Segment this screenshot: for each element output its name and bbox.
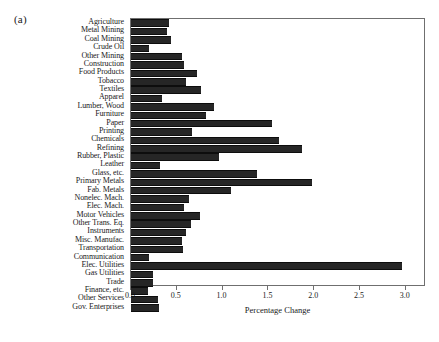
- bar: [131, 246, 183, 253]
- bar: [131, 78, 186, 85]
- bar: [131, 220, 191, 227]
- x-tick-label: 0.0: [125, 291, 135, 300]
- bar: [131, 229, 186, 236]
- x-tick-label: 3.0: [400, 291, 410, 300]
- bar-row: [131, 220, 424, 228]
- bar-row: [131, 262, 424, 270]
- bar-row: [131, 128, 424, 136]
- panel-letter: (a): [14, 13, 27, 25]
- x-tick-mark: [176, 286, 177, 290]
- bar-row: [131, 187, 424, 195]
- bar-row: [131, 86, 424, 94]
- bar-row: [131, 178, 424, 186]
- bar: [131, 86, 201, 93]
- x-tick-mark: [267, 286, 268, 290]
- bar: [131, 179, 312, 186]
- bar: [131, 28, 167, 35]
- x-tick-mark: [313, 286, 314, 290]
- bar: [131, 137, 279, 144]
- bar: [131, 45, 149, 52]
- bar-row: [131, 136, 424, 144]
- bar-row: [131, 270, 424, 278]
- bar: [131, 153, 219, 160]
- bar: [131, 61, 184, 68]
- bar-row: [131, 69, 424, 77]
- bar: [131, 36, 171, 43]
- x-tick-mark: [405, 286, 406, 290]
- x-tick-label: 1.5: [262, 291, 272, 300]
- bar-row: [131, 94, 424, 102]
- bar-row: [131, 153, 424, 161]
- bar: [131, 103, 214, 110]
- bar: [131, 262, 402, 269]
- bar-row: [131, 228, 424, 236]
- figure-panel-a: (a) AgricultureMetal MiningCoal MiningCr…: [0, 0, 439, 342]
- bar-row: [131, 103, 424, 111]
- x-tick-mark: [130, 286, 131, 290]
- x-tick-label: 0.5: [171, 291, 181, 300]
- bar-row: [131, 36, 424, 44]
- bar: [131, 204, 184, 211]
- bar-row: [131, 245, 424, 253]
- bar: [131, 170, 257, 177]
- bar-row: [131, 120, 424, 128]
- bar: [131, 128, 192, 135]
- bar: [131, 19, 169, 26]
- bar: [131, 195, 189, 202]
- bar-row: [131, 145, 424, 153]
- bar: [131, 120, 272, 127]
- bar-row: [131, 170, 424, 178]
- bar-row: [131, 53, 424, 61]
- bar: [131, 187, 231, 194]
- bar: [131, 95, 162, 102]
- bar-row: [131, 254, 424, 262]
- x-tick-mark: [359, 286, 360, 290]
- bar-row: [131, 19, 424, 27]
- bar-row: [131, 195, 424, 203]
- x-tick-label: 2.5: [354, 291, 364, 300]
- bar-row: [131, 27, 424, 35]
- bar: [131, 145, 302, 152]
- bar: [131, 162, 160, 169]
- x-tick-mark: [222, 286, 223, 290]
- x-tick-label: 1.0: [217, 291, 227, 300]
- bar-row: [131, 78, 424, 86]
- bar-row: [131, 161, 424, 169]
- bar: [131, 212, 200, 219]
- bar-row: [131, 111, 424, 119]
- plot-area: [130, 18, 425, 286]
- x-axis-title: Percentage Change: [130, 305, 425, 315]
- bar: [131, 70, 197, 77]
- bar-row: [131, 61, 424, 69]
- category-label: Gov. Enterprises: [30, 303, 124, 311]
- bar: [131, 237, 182, 244]
- x-tick-label: 2.0: [308, 291, 318, 300]
- bar-row: [131, 203, 424, 211]
- bar: [131, 112, 206, 119]
- bar-series: [131, 19, 424, 285]
- bar-row: [131, 44, 424, 52]
- bar: [131, 254, 149, 261]
- category-axis-labels: AgricultureMetal MiningCoal MiningCrude …: [30, 18, 124, 286]
- bar-row: [131, 212, 424, 220]
- bar: [131, 271, 153, 278]
- bar: [131, 53, 182, 60]
- bar-row: [131, 237, 424, 245]
